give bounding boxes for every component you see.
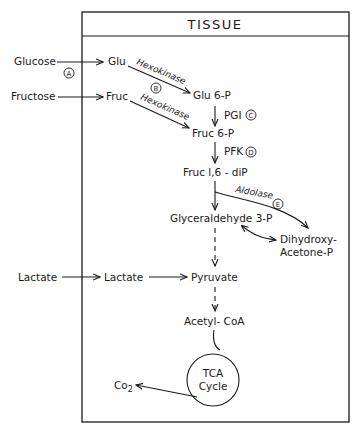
pyruvate-label: Pyruvate [191,271,238,283]
svg-text:D: D [248,149,253,157]
fruc16dip-label: Fruc l,6 - diP [183,166,248,178]
marker-e-icon: E [273,199,283,209]
tca-label-line2: Cycle [199,380,228,392]
tca-label-line1: TCA [202,367,224,379]
glu-label: Glu [108,55,126,67]
svg-text:A: A [67,70,72,78]
lactate-label: Lactate [104,271,143,283]
co2-label: Co2 [114,379,133,394]
dhap-label-line1: Dihydroxy- [280,233,337,245]
glycolysis-diagram: TISSUE Glucose A Glu Hexokinase B Glu 6-… [0,0,361,438]
marker-b-icon: B [151,83,161,93]
marker-d-icon: D [246,147,256,157]
pgi-label: PGI [224,109,242,121]
hexokinase-glu-label: Hexokinase [135,57,187,87]
marker-c-icon: C [246,110,256,120]
svg-text:C: C [249,112,254,120]
svg-text:B: B [154,85,159,93]
svg-text:E: E [276,201,280,209]
fructose-external-label: Fructose [11,90,56,102]
pfk-label: PFK [224,145,244,157]
fruc6p-label: Fruc 6-P [192,127,234,139]
g3p-label: Glyceraldehyde 3-P [170,212,272,224]
marker-a-icon: A [64,68,74,78]
lactate-external-label: Lactate [18,271,57,283]
isomerase-arrow [242,226,276,240]
acetylcoa-label: Acetyl- CoA [184,315,245,327]
acetylcoa-to-tca-connector [213,330,220,350]
fruc-label: Fruc [106,90,128,102]
glucose-external-label: Glucose [14,55,56,67]
dhap-label-line2: Acetone-P [280,246,333,258]
tissue-title: TISSUE [186,17,242,32]
glu6p-label: Glu 6-P [193,89,231,101]
